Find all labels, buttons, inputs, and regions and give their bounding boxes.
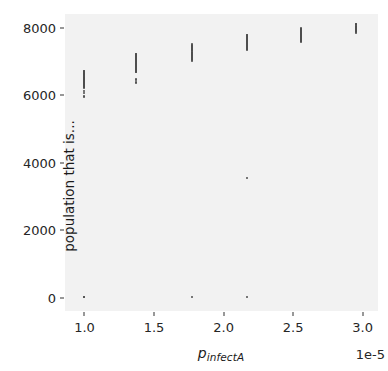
- data-point: [83, 90, 85, 92]
- x-axis-offset-text: 1e-5: [356, 347, 385, 362]
- x-tick-label: 3.0: [352, 320, 373, 335]
- x-tick-label: 1.0: [74, 320, 95, 335]
- data-point: [83, 87, 85, 89]
- x-tick-label: 1.5: [144, 320, 165, 335]
- y-tick-mark: [60, 95, 64, 96]
- x-axis-label: pinfectA: [198, 345, 244, 363]
- scatter-plot-figure: 02000400060008000 1.01.52.02.53.0 popula…: [0, 0, 388, 371]
- y-tick-mark: [60, 27, 64, 28]
- y-tick-label: 8000: [23, 20, 56, 35]
- y-tick-label: 2000: [23, 223, 56, 238]
- plot-panel: [65, 14, 378, 311]
- y-tick-mark: [60, 297, 64, 298]
- data-point: [191, 60, 193, 62]
- data-point: [83, 96, 85, 98]
- x-axis-label-subscript: infectA: [207, 351, 245, 363]
- y-tick-label: 0: [48, 290, 56, 305]
- x-tick-label: 2.5: [283, 320, 304, 335]
- x-tick-mark: [154, 312, 155, 316]
- data-point: [300, 41, 302, 43]
- x-tick-mark: [223, 312, 224, 316]
- x-tick-label: 2.0: [213, 320, 234, 335]
- x-tick-mark: [293, 312, 294, 316]
- data-point: [191, 296, 193, 298]
- x-axis-label-base: p: [198, 345, 207, 361]
- data-point: [246, 49, 248, 51]
- data-point: [83, 296, 85, 298]
- data-point: [246, 177, 248, 179]
- x-tick-mark: [362, 312, 363, 316]
- y-tick-label: 6000: [23, 88, 56, 103]
- y-tick-label: 4000: [23, 155, 56, 170]
- y-axis-label: population that is...: [61, 120, 77, 252]
- data-point: [246, 296, 248, 298]
- data-point: [355, 32, 357, 34]
- data-point: [135, 82, 137, 84]
- data-point: [135, 71, 137, 73]
- x-tick-mark: [84, 312, 85, 316]
